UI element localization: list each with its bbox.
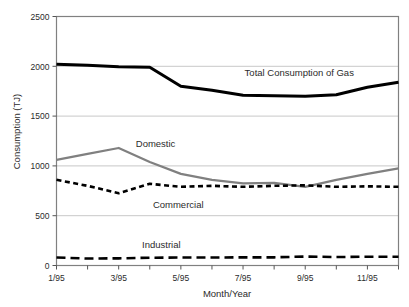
x-axis-title: Month/Year — [56, 288, 398, 299]
ytick-label: 0 — [45, 261, 50, 271]
ytick-label: 1000 — [31, 161, 50, 171]
xtick-label: 5/95 — [173, 273, 190, 283]
chart-canvas: 050010001500200025001/953/955/957/959/95… — [0, 0, 409, 307]
series-label-commercial: Commercial — [153, 199, 204, 210]
plot-border — [57, 17, 399, 266]
series-label-industrial: Industrial — [142, 239, 181, 250]
axis-ticks — [53, 17, 399, 270]
xtick-label: 7/95 — [235, 273, 252, 283]
xtick-label: 9/95 — [297, 273, 314, 283]
ytick-label: 2500 — [31, 12, 50, 22]
gas-consumption-line-chart: 050010001500200025001/953/955/957/959/95… — [0, 0, 409, 307]
data-series — [57, 64, 399, 258]
xtick-label: 11/95 — [357, 273, 378, 283]
plot-frame — [57, 17, 399, 266]
series-label-domestic: Domestic — [136, 138, 176, 149]
xtick-label: 1/95 — [48, 273, 65, 283]
ytick-label: 2000 — [31, 62, 50, 72]
ytick-label: 1500 — [31, 111, 50, 121]
series-line-domestic — [57, 148, 399, 187]
ytick-label: 500 — [35, 211, 49, 221]
series-line-industrial — [57, 257, 399, 259]
axis-tick-labels: 050010001500200025001/953/955/957/959/95… — [31, 12, 378, 283]
y-axis-title: Consumption (TJ) — [11, 82, 22, 182]
series-label-total-consumption-of-gas: Total Consumption of Gas — [245, 67, 354, 78]
xtick-label: 3/95 — [110, 273, 127, 283]
